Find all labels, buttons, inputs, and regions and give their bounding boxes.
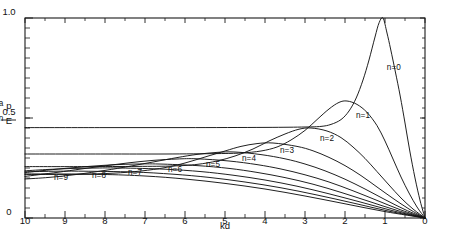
curve-label: n=2 <box>320 134 334 143</box>
curve-labels: n=0n=1n=2n=3n=4n=5n=6n=7n=8n=9 <box>54 63 401 182</box>
curve-label: n=3 <box>280 146 294 155</box>
curve-label: n=5 <box>206 160 220 169</box>
figure-root: 012345678910 00.51.0 n=0n=1n=2n=3n=4n=5n… <box>0 0 453 242</box>
ytitle-num-sub: n <box>0 114 4 123</box>
x-tick-label: 1 <box>382 215 387 226</box>
curve-label: n=0 <box>387 63 401 72</box>
y-tick-label: 1.0 <box>2 6 15 17</box>
ytitle-num: E <box>6 115 12 126</box>
x-tick-label: 4 <box>262 215 267 226</box>
curve-label: n=6 <box>168 165 182 174</box>
curve-n7 <box>25 168 425 218</box>
x-axis-title: kd <box>220 220 230 231</box>
ytitle-den: p <box>6 100 11 111</box>
x-tick-label: 3 <box>302 215 307 226</box>
curve-label: n=8 <box>92 171 106 180</box>
x-tick-label: 0 <box>422 215 427 226</box>
curve-label: n=9 <box>54 173 68 182</box>
x-tick-label: 6 <box>182 215 187 226</box>
x-tick-label: 2 <box>342 215 347 226</box>
curve-label: n=7 <box>128 168 142 177</box>
curve-label: n=4 <box>242 154 256 163</box>
curve-label: n=1 <box>356 111 370 120</box>
x-tick-label: 9 <box>62 215 67 226</box>
curve-n6 <box>25 164 425 218</box>
x-tick-label: 7 <box>142 215 147 226</box>
plot-svg: 012345678910 00.51.0 n=0n=1n=2n=3n=4n=5n… <box>0 0 453 242</box>
x-tick-label: 10 <box>20 215 31 226</box>
y-axis-tick-labels: 00.51.0 <box>2 6 15 217</box>
ytitle-den-sub: a <box>0 99 4 108</box>
x-tick-label: 8 <box>102 215 107 226</box>
y-tick-label: 0 <box>6 206 11 217</box>
xtitle: kd <box>220 220 230 231</box>
rotated-plot-container: 012345678910 00.51.0 n=0n=1n=2n=3n=4n=5n… <box>0 0 453 242</box>
